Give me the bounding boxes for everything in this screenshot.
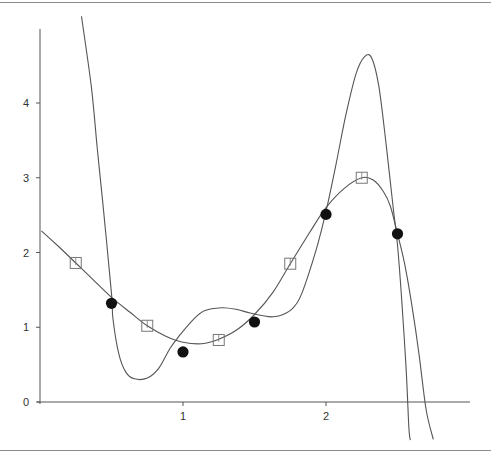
y-tick-label: 1 xyxy=(23,321,29,333)
y-tick-label: 2 xyxy=(23,247,29,259)
curves xyxy=(41,16,433,440)
data-point-filled-circle xyxy=(177,346,188,357)
chart-plot-area: 01234 12 xyxy=(0,0,491,457)
x-tick-label: 2 xyxy=(323,410,329,422)
high-degree-interpolating-curve xyxy=(82,16,411,440)
x-axis: 12 xyxy=(37,402,470,422)
data-point-filled-circle xyxy=(249,316,260,327)
data-point-filled-circle xyxy=(320,209,331,220)
smooth-fit-curve xyxy=(41,177,433,439)
data-point-filled-circle xyxy=(106,298,117,309)
data-point-filled-circle xyxy=(392,228,403,239)
y-tick-label: 3 xyxy=(23,172,29,184)
y-tick-label: 4 xyxy=(23,97,29,109)
y-tick-label: 0 xyxy=(23,396,29,408)
y-axis: 01234 xyxy=(23,29,40,408)
x-tick-label: 1 xyxy=(180,410,186,422)
